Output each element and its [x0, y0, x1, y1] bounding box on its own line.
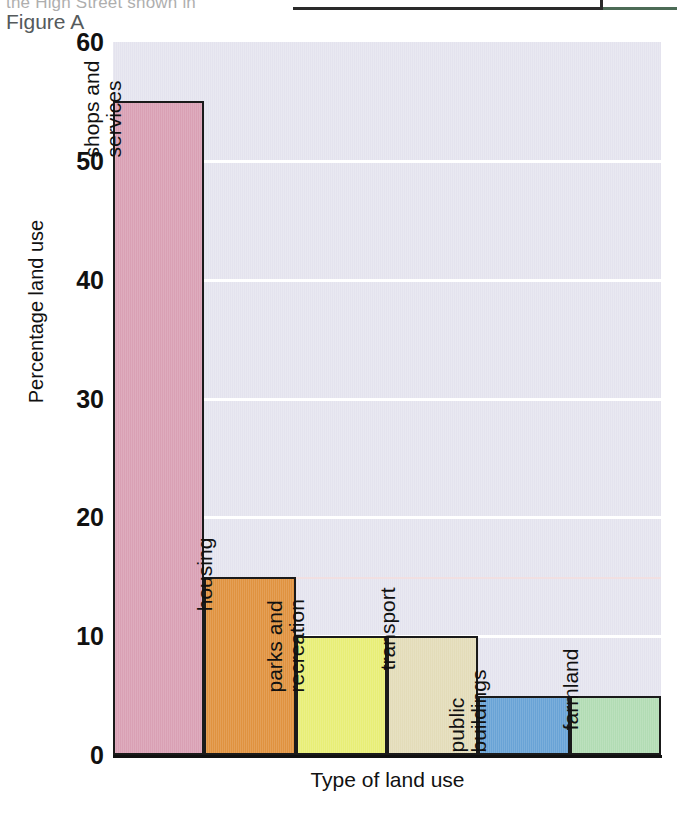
bar-label-housing: housing: [194, 381, 216, 611]
x-axis-line: [113, 755, 662, 758]
bar-label-transport: transport: [377, 440, 399, 670]
x-axis-title: Type of land use: [113, 768, 662, 792]
y-tick-label-0: 0: [4, 741, 104, 770]
bar-label-shops-and-services: shops and services: [81, 0, 126, 158]
bar-farmland: [570, 696, 661, 755]
bar-label-public-buildings: public buildings: [446, 522, 491, 752]
y-axis-title: Percentage land use: [25, 172, 48, 452]
bar-label-parks-and-recreation: parks and recreation: [263, 463, 308, 693]
y-tick-label-30: 30: [4, 384, 104, 413]
y-tick-label-10: 10: [4, 622, 104, 651]
y-tick-label-20: 20: [4, 503, 104, 532]
top-box-green-rule: [603, 7, 677, 10]
bar-parks-and-recreation: [296, 636, 387, 755]
bar-label-farmland: farmland: [559, 500, 581, 730]
bar-shops-and-services: [113, 101, 204, 755]
bar-public-buildings: [478, 696, 569, 755]
y-tick-label-40: 40: [4, 265, 104, 294]
